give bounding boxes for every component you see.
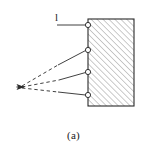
ray-to-node-2-solid [58, 51, 86, 66]
ray-to-node-3-dashed [22, 80, 59, 87]
ray-to-node-3-solid [59, 73, 86, 81]
node-marker-2 [85, 47, 90, 52]
length-label: l [55, 11, 58, 23]
ray-to-node-2-dashed [22, 65, 58, 86]
ray-to-node-4-solid [58, 92, 86, 95]
figure-container: l (a) [0, 0, 147, 156]
node-marker-3 [85, 69, 90, 74]
ray-to-node-4-dashed [22, 88, 58, 92]
node-marker-4 [85, 92, 90, 97]
hatched-block [88, 19, 134, 106]
node-marker-1 [85, 22, 90, 27]
figure-caption: (a) [0, 129, 147, 141]
